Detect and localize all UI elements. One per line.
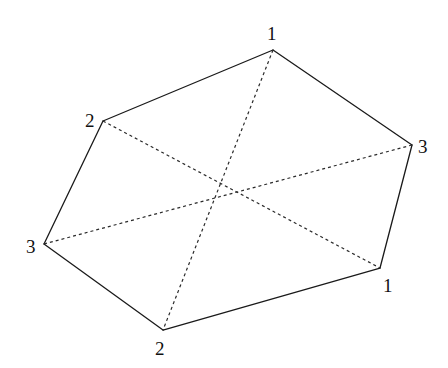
hexagon-edges [44, 50, 412, 330]
hexagon-edge [163, 268, 380, 330]
hexagon-edge [103, 50, 273, 121]
dashed-diagonal [163, 50, 273, 330]
vertex-label-bottom-right: 1 [383, 275, 393, 296]
dashed-diagonals [44, 50, 412, 330]
hexagon-diagram: 1 3 1 2 3 2 [0, 0, 448, 368]
vertex-label-right: 3 [418, 136, 428, 157]
vertex-label-left: 3 [26, 236, 36, 257]
vertex-label-top: 1 [267, 23, 277, 44]
hexagon-edge [273, 50, 412, 145]
vertex-label-upper-left: 2 [85, 110, 95, 131]
hexagon-edge [44, 244, 163, 330]
dashed-diagonal [44, 145, 412, 244]
hexagon-edge [44, 121, 103, 244]
dashed-diagonal [103, 121, 380, 268]
vertex-labels: 1 3 1 2 3 2 [26, 23, 428, 359]
vertex-label-bottom: 2 [155, 338, 165, 359]
hexagon-edge [380, 145, 412, 268]
